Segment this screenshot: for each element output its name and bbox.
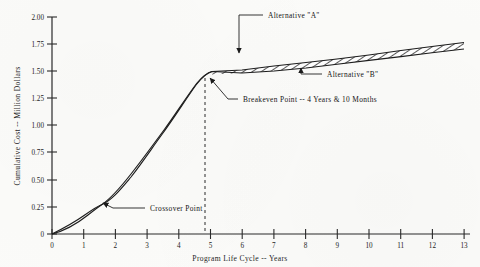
y-tick-label: 0 — [40, 231, 44, 239]
x-axis-tick-labels: 0 1 2 3 4 5 6 7 8 9 10 11 12 13 — [50, 242, 468, 250]
y-tick-label: 1.75 — [31, 41, 44, 49]
series-alternative-b — [52, 49, 464, 234]
x-tick-label: 0 — [50, 242, 54, 250]
x-tick-label: 10 — [365, 242, 373, 250]
x-tick-label: 1 — [82, 242, 86, 250]
chart-figure: 0 0.25 0.50 0.75 1.00 1.25 1.50 1.75 2.0… — [0, 0, 480, 267]
x-tick-label: 6 — [240, 242, 244, 250]
y-tick-label: 0.50 — [31, 177, 44, 185]
y-axis: 0 0.25 0.50 0.75 1.00 1.25 1.50 1.75 2.0… — [13, 14, 57, 239]
x-tick-label: 11 — [397, 242, 404, 250]
y-tick-label: 1.00 — [31, 122, 44, 130]
annotation-breakeven-point: Breakeven Point -- 4 Years & 10 Months — [210, 78, 377, 104]
y-tick-label: 0.75 — [31, 149, 44, 157]
x-axis-title: Program Life Cycle -- Years — [192, 254, 287, 263]
annotation-alternative-b-label: Alternative "B" — [327, 70, 378, 79]
y-tick-label: 1.50 — [31, 68, 44, 76]
y-axis-title: Cumulative Cost -- Million Dollars — [13, 66, 22, 185]
annotation-crossover-point: Crossover Point — [103, 203, 203, 213]
x-tick-label: 4 — [177, 242, 181, 250]
x-tick-label: 8 — [304, 242, 308, 250]
y-tick-label: 2.00 — [31, 14, 44, 22]
y-tick-label: 0.25 — [31, 204, 44, 212]
annotation-breakeven-point-label: Breakeven Point -- 4 Years & 10 Months — [243, 95, 377, 104]
x-tick-label: 13 — [461, 242, 469, 250]
x-tick-label: 3 — [145, 242, 149, 250]
y-axis-tick-labels: 0 0.25 0.50 0.75 1.00 1.25 1.50 1.75 2.0… — [31, 14, 44, 239]
annotation-crossover-point-label: Crossover Point — [150, 204, 203, 213]
x-tick-label: 12 — [429, 242, 437, 250]
x-tick-label: 2 — [114, 242, 118, 250]
chart-canvas: 0 0.25 0.50 0.75 1.00 1.25 1.50 1.75 2.0… — [0, 0, 480, 267]
annotation-alternative-a: Alternative "A" — [239, 11, 320, 53]
x-axis: 0 1 2 3 4 5 6 7 8 9 10 11 12 13 Program … — [50, 229, 470, 263]
x-tick-label: 9 — [336, 242, 340, 250]
annotation-alternative-a-label: Alternative "A" — [268, 11, 320, 20]
x-tick-label: 5 — [209, 242, 213, 250]
x-tick-label: 7 — [272, 242, 276, 250]
y-tick-label: 1.25 — [31, 95, 44, 103]
annotation-alternative-b: Alternative "B" — [301, 68, 378, 79]
